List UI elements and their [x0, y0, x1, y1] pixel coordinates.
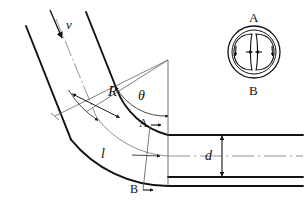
section-label-b: B — [130, 183, 138, 195]
velocity-arrow — [50, 10, 62, 38]
inset-arrow-right-outer — [272, 46, 273, 56]
arc-length-label: l — [101, 147, 105, 161]
pipe-bend-figure: v R θ l d A B A B — [0, 0, 307, 214]
section-line-ab — [143, 125, 161, 190]
angle-label: θ — [138, 89, 145, 103]
figure-canvas — [0, 0, 307, 214]
inset-inner-circle — [232, 30, 276, 74]
secondary-flow-inset — [228, 26, 280, 78]
velocity-label: v — [66, 18, 72, 31]
outlet-flow-arrow — [132, 155, 160, 156]
inset-label-b: B — [249, 84, 258, 97]
inset-arrow-left-outer — [235, 46, 236, 56]
diameter-label: d — [205, 149, 212, 163]
radius-construction-lines — [51, 60, 168, 186]
section-label-a: A — [139, 117, 148, 129]
outer-wall — [26, 26, 303, 186]
inset-label-a: A — [249, 11, 258, 24]
radius-label: R — [108, 84, 117, 99]
